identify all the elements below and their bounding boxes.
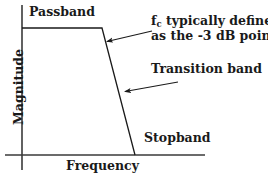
- stopband-label: Stopband: [144, 131, 211, 145]
- passband-label: Passband: [29, 5, 95, 19]
- fc-annotation-line2: as the -3 dB point: [151, 29, 268, 43]
- y-axis-label: Magnitude: [12, 46, 26, 128]
- transition-band-label: Transition band: [151, 62, 262, 76]
- filter-response-curve: [22, 28, 135, 155]
- filter-response-figure: Passband Stopband Transition band fc typ…: [0, 0, 268, 179]
- x-axis-label: Frequency: [66, 159, 139, 173]
- cutoff-frequency-annotation: fc typically defined as the -3 dB point: [151, 14, 268, 43]
- fc-annotation-arrow: [107, 31, 152, 42]
- fc-annotation-line1-rest: typically defined: [162, 13, 268, 28]
- transition-band-annotation-arrow: [125, 82, 178, 92]
